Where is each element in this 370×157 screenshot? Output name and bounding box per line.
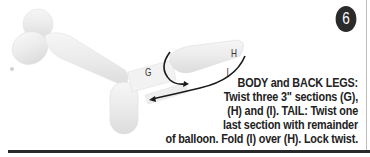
- bottom-divider: [8, 150, 370, 153]
- step-number-badge: 6: [336, 6, 357, 32]
- balloon-nozzle: [10, 67, 14, 71]
- instruction-caption: BODY and BACK LEGS: Twist three 3" secti…: [98, 76, 358, 146]
- right-divider: [366, 0, 367, 150]
- caption-line: of balloon. Fold (I) over (H). Lock twis…: [134, 132, 358, 146]
- instruction-step-panel: G H I 6 BODY and BACK LEGS: Twist three …: [0, 0, 370, 157]
- caption-line: last section with remainder: [134, 118, 358, 132]
- section-label-h: H: [231, 47, 237, 59]
- caption-line: (H) and (I). TAIL: Twist one: [134, 104, 358, 118]
- caption-line: BODY and BACK LEGS:: [134, 76, 358, 90]
- caption-line: Twist three 3" sections (G),: [134, 90, 358, 104]
